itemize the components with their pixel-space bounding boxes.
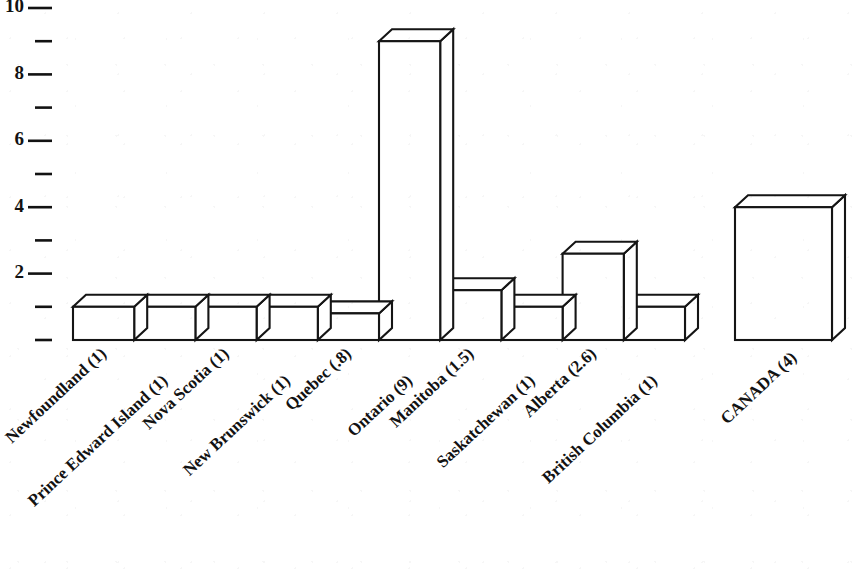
y-axis: 246810 — [5, 0, 52, 340]
y-axis-tick-label: 8 — [15, 62, 25, 83]
bar — [73, 295, 147, 340]
bar-top-face — [563, 242, 637, 254]
y-axis-tick-label: 10 — [5, 0, 24, 16]
bar — [735, 195, 845, 340]
bar — [379, 29, 453, 340]
bar-front-face — [735, 207, 832, 340]
category-label: Saskatchewan (1) — [433, 371, 539, 472]
y-axis-tick-label: 6 — [15, 128, 25, 149]
bars-group — [73, 29, 845, 340]
bar-chart: 246810 Newfoundland (1)Prince Edward Isl… — [0, 0, 862, 570]
bar-side-face — [440, 29, 453, 340]
bar-front-face — [379, 41, 440, 340]
bar-side-face — [832, 195, 845, 340]
bar-front-face — [73, 307, 134, 340]
bar-top-face — [73, 295, 147, 307]
y-axis-tick-label: 2 — [15, 261, 25, 282]
y-axis-tick-label: 4 — [15, 195, 25, 216]
bar-top-face — [379, 29, 453, 41]
category-labels: Newfoundland (1)Prince Edward Island (1)… — [2, 344, 801, 510]
category-label: Quebec (.8) — [281, 344, 355, 415]
chart-canvas: 246810 Newfoundland (1)Prince Edward Isl… — [0, 0, 862, 570]
category-label: CANADA (4) — [717, 348, 801, 428]
bar-side-face — [624, 242, 637, 340]
bar-top-face — [735, 195, 845, 207]
